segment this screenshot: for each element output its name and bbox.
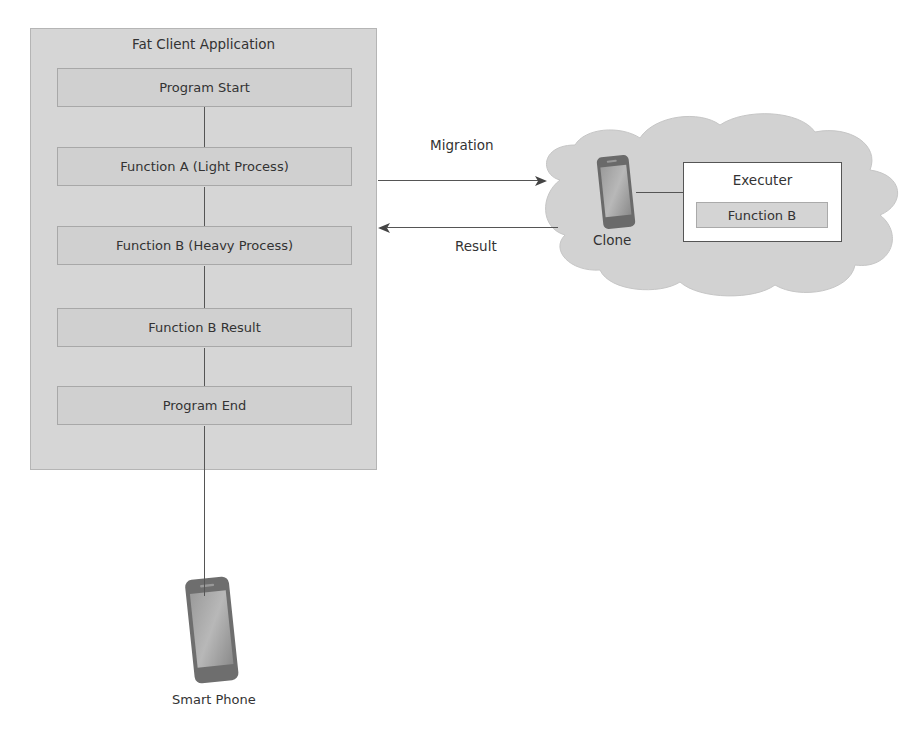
smart-phone-icon — [184, 576, 239, 684]
connector-line — [204, 266, 205, 308]
step-label: Function A (Light Process) — [120, 159, 289, 174]
result-arrow — [386, 227, 558, 228]
connector-line — [204, 187, 205, 226]
step-function-b-result: Function B Result — [57, 308, 352, 347]
step-label: Function B Result — [148, 320, 261, 335]
clone-label: Clone — [593, 232, 631, 248]
executer-function-label: Function B — [728, 208, 796, 223]
executer-function-b: Function B — [696, 202, 828, 228]
device-connector-line — [204, 426, 205, 596]
migration-label: Migration — [430, 137, 494, 153]
step-label: Program Start — [159, 80, 250, 95]
migration-arrowhead-icon — [535, 176, 547, 186]
executer-title: Executer — [683, 172, 842, 188]
result-arrowhead-icon — [378, 223, 390, 233]
step-function-a: Function A (Light Process) — [57, 147, 352, 186]
smart-phone-label: Smart Phone — [172, 692, 256, 707]
clone-executer-line — [636, 192, 683, 193]
step-program-end: Program End — [57, 386, 352, 425]
step-label: Program End — [163, 398, 247, 413]
result-label: Result — [455, 238, 497, 254]
fat-client-title: Fat Client Application — [30, 36, 377, 52]
step-program-start: Program Start — [57, 68, 352, 107]
step-function-b: Function B (Heavy Process) — [57, 226, 352, 265]
migration-arrow — [378, 180, 538, 181]
connector-line — [204, 348, 205, 386]
step-label: Function B (Heavy Process) — [116, 238, 293, 253]
connector-line — [204, 107, 205, 147]
